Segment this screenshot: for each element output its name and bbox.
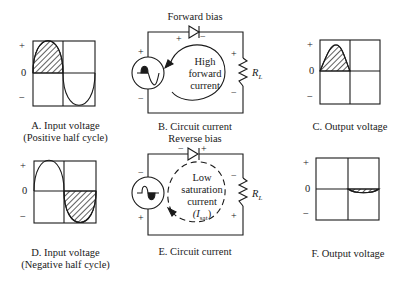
source-minus-e: − <box>138 167 144 179</box>
caption-b: B. Circuit current <box>150 121 240 133</box>
bias-label-b: Forward bias <box>160 11 230 23</box>
current-text-e: Low saturation current (Isat) <box>172 172 232 224</box>
caption-f: F. Output voltage <box>303 248 393 260</box>
caption-c: C. Output voltage <box>305 121 395 133</box>
graph-c-output-positive <box>320 40 380 104</box>
axis-plus-f: + <box>303 157 309 169</box>
current-text-b: High forward current <box>180 56 230 92</box>
diode-plus-e: + <box>201 143 207 155</box>
graph-f-output-negative <box>316 158 379 220</box>
diode-minus-b: − <box>200 31 206 43</box>
resistor-label-e: RL <box>252 188 262 204</box>
axis-minus-c: − <box>307 91 313 103</box>
diode-minus-e: − <box>178 143 184 155</box>
resistor-plus-b: + <box>231 48 237 60</box>
axis-minus-a: − <box>19 92 25 104</box>
axis-zero-c: 0 <box>309 65 314 77</box>
caption-e: E. Circuit current <box>150 246 240 258</box>
graph-a-input-positive <box>33 41 95 106</box>
source-plus-e: + <box>138 212 144 224</box>
axis-plus-a: + <box>19 40 25 52</box>
source-minus-b: − <box>138 93 144 105</box>
bias-label-e: Reverse bias <box>160 133 230 145</box>
caption-a: A. Input voltage (Positive half cycle) <box>8 120 123 144</box>
axis-plus-c: + <box>307 39 313 51</box>
axis-minus-f: − <box>303 208 309 220</box>
graph-d-input-negative <box>34 160 96 223</box>
diode-plus-b: + <box>176 33 182 45</box>
source-plus-b: + <box>138 46 144 58</box>
resistor-label-b: RL <box>252 67 262 83</box>
resistor-minus-b: − <box>231 87 237 99</box>
axis-plus-d: + <box>20 160 26 172</box>
axis-zero-a: 0 <box>21 67 26 79</box>
axis-zero-f: 0 <box>305 183 310 195</box>
axis-minus-d: − <box>20 211 26 223</box>
axis-zero-d: 0 <box>22 185 27 197</box>
caption-d: D. Input voltage (Negative half cycle) <box>8 247 123 271</box>
